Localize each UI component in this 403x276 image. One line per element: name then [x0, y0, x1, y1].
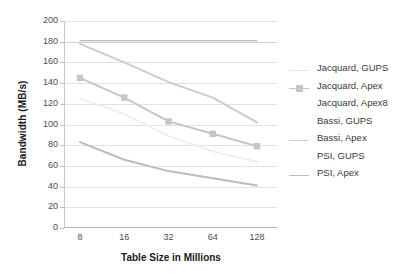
y-tick-label: 120 — [18, 98, 58, 108]
y-tick-label: 60 — [18, 160, 58, 170]
legend-item[interactable]: Bassi, GUPS — [289, 115, 401, 133]
y-tick-label: 80 — [18, 139, 58, 149]
series-lines — [64, 21, 277, 228]
y-tick-label: 140 — [18, 77, 58, 87]
legend-swatch-icon — [289, 104, 309, 107]
legend-label: Jacquard, GUPS — [317, 62, 388, 73]
x-tick-label: 64 — [193, 232, 233, 242]
legend-label: Bassi, GUPS — [317, 115, 372, 126]
legend-label: Bassi, Apex — [317, 132, 367, 143]
legend-item[interactable]: PSI, GUPS — [289, 150, 401, 168]
y-tick-label: 100 — [18, 119, 58, 129]
series-line — [80, 142, 257, 186]
series-marker — [121, 94, 127, 100]
legend-item[interactable]: PSI, Apex — [289, 167, 401, 185]
series-line — [80, 44, 257, 123]
y-tick-label: 0 — [18, 222, 58, 232]
legend-square-marker-icon — [296, 85, 303, 92]
x-tick-label: 128 — [237, 232, 277, 242]
legend-label: PSI, GUPS — [317, 150, 365, 161]
legend-swatch-icon — [289, 69, 309, 72]
y-tick-label: 200 — [18, 15, 58, 25]
x-axis-title: Table Size in Millions — [40, 252, 302, 263]
legend-swatch-icon — [289, 174, 309, 177]
legend-label: PSI, Apex — [317, 167, 359, 178]
y-tick-label: 20 — [18, 201, 58, 211]
legend-line-icon — [289, 70, 309, 71]
x-tick-label: 32 — [149, 232, 189, 242]
plot-area — [64, 21, 277, 228]
legend-item[interactable]: Jacquard, GUPS — [289, 62, 401, 80]
y-tick-mark — [60, 228, 64, 229]
legend-item[interactable]: Bassi, Apex — [289, 132, 401, 150]
series-marker — [210, 131, 216, 137]
series-marker — [254, 143, 260, 149]
series-marker — [77, 75, 83, 81]
legend-line-icon — [289, 175, 309, 176]
y-tick-label: 180 — [18, 36, 58, 46]
y-tick-label: 160 — [18, 56, 58, 66]
legend-swatch-icon — [289, 157, 309, 160]
chart-figure: Bandwidth (MB/s) 02040608010012014016018… — [0, 0, 403, 276]
legend-swatch-icon — [289, 122, 309, 125]
legend-label: Jacquard, Apex — [317, 80, 383, 91]
legend-line-icon — [289, 140, 309, 141]
y-tick-label: 40 — [18, 181, 58, 191]
legend-swatch-icon — [289, 139, 309, 142]
legend-item[interactable]: Jacquard, Apex — [289, 80, 401, 98]
legend-swatch-icon — [289, 87, 309, 90]
x-tick-label: 16 — [104, 232, 144, 242]
chart-legend: Jacquard, GUPSJacquard, ApexJacquard, Ap… — [289, 62, 401, 185]
legend-label: Jacquard, Apex8 — [317, 97, 388, 108]
series-marker — [165, 118, 171, 124]
legend-item[interactable]: Jacquard, Apex8 — [289, 97, 401, 115]
x-tick-label: 8 — [60, 232, 100, 242]
